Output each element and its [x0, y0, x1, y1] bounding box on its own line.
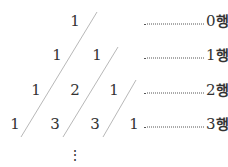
cell-r3-c2: 3 — [90, 117, 100, 132]
cell-r0-c0: 1 — [70, 14, 80, 29]
cell-r2-c1: 2 — [70, 83, 80, 98]
cell-r2-c0: 1 — [31, 83, 41, 98]
continuation-dots: ⋮ — [68, 148, 82, 163]
row-label-1: 1행 — [144, 48, 228, 63]
cell-r1-c0: 1 — [52, 48, 62, 63]
row-label-3: 3행 — [144, 117, 228, 132]
cell-r2-c2: 1 — [109, 83, 119, 98]
leader-dots — [144, 58, 204, 59]
cell-r3-c3: 1 — [129, 117, 139, 132]
row-label-0: 0행 — [144, 14, 228, 29]
cell-r3-c1: 3 — [50, 117, 60, 132]
leader-dots — [144, 24, 204, 25]
leader-dots — [144, 127, 204, 128]
cell-r3-c0: 1 — [10, 117, 20, 132]
leader-dots — [144, 93, 204, 94]
cell-r1-c1: 1 — [92, 48, 102, 63]
row-label-2: 2행 — [144, 83, 228, 98]
